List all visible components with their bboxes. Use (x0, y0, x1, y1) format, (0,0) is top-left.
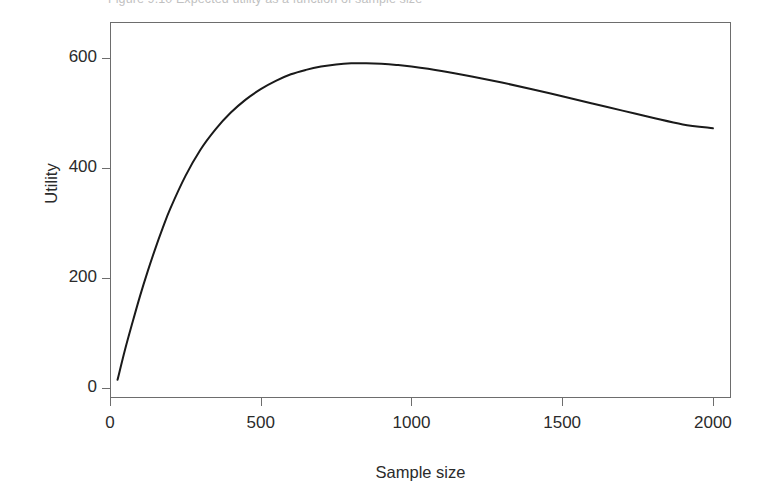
x-tick-mark (411, 398, 412, 406)
utility-curve-svg (110, 22, 731, 398)
x-tick-mark (110, 398, 111, 406)
y-tick-mark (102, 168, 110, 169)
x-tick-mark (713, 398, 714, 406)
x-tick-label: 0 (60, 413, 160, 433)
figure-container: Figure 9.10 Expected utility as a functi… (0, 0, 758, 503)
y-tick-label: 600 (12, 47, 97, 67)
figure-caption: Figure 9.10 Expected utility as a functi… (108, 0, 668, 6)
y-tick-mark (102, 278, 110, 279)
x-tick-label: 1000 (361, 413, 461, 433)
y-axis-title: Utility (42, 144, 61, 224)
x-axis-title: Sample size (110, 463, 731, 482)
y-tick-mark (102, 58, 110, 59)
x-tick-label: 500 (211, 413, 311, 433)
y-tick-label: 0 (12, 377, 97, 397)
y-tick-label: 200 (12, 267, 97, 287)
x-tick-label: 2000 (663, 413, 758, 433)
y-tick-mark (102, 388, 110, 389)
x-tick-label: 1500 (512, 413, 612, 433)
plot-area (110, 22, 731, 398)
x-tick-mark (261, 398, 262, 406)
x-tick-mark (562, 398, 563, 406)
expected-utility-line (118, 63, 713, 380)
